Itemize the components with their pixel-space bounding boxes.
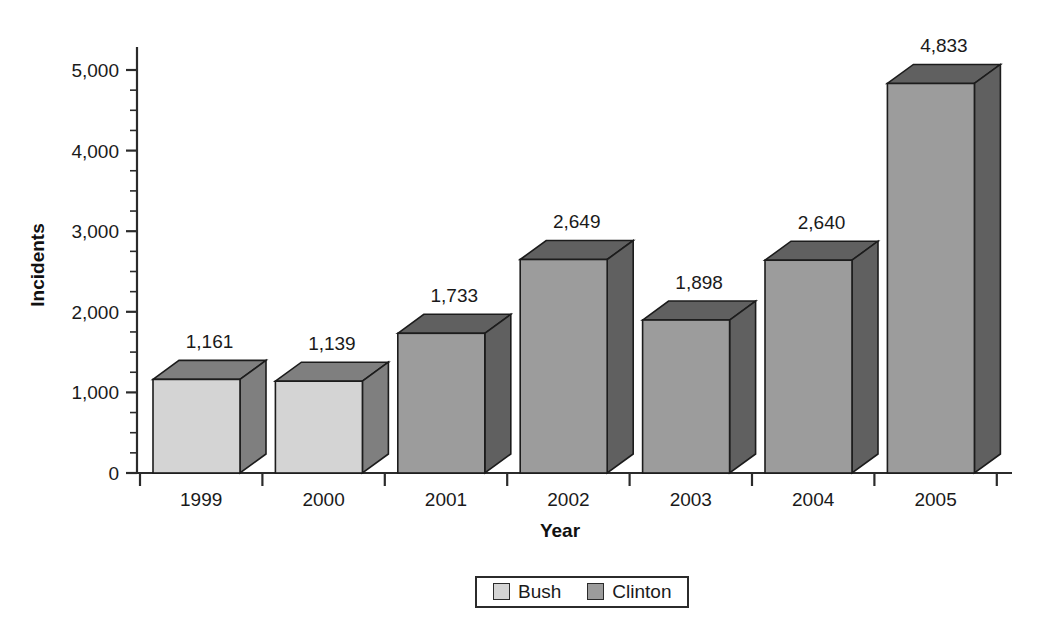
value-label-1999: 1,161 [186,331,234,352]
value-label-2002: 2,649 [553,211,601,232]
value-label-2003: 1,898 [675,272,723,293]
bar-2004 [765,241,878,473]
bar-2003 [643,301,756,473]
legend-swatch-clinton [587,583,604,600]
y-tick-label: 4,000 [71,141,119,162]
bar-2001 [398,314,511,473]
value-label-2000: 1,139 [308,333,356,354]
bar-2002 [520,240,633,473]
legend-label-bush: Bush [518,582,561,601]
legend-item-bush: Bush [493,582,561,601]
x-tick-label-2004: 2004 [792,489,835,510]
x-tick-label-1999: 1999 [180,489,222,510]
y-tick-label: 2,000 [71,302,119,323]
value-label-2005: 4,833 [920,35,968,56]
value-label-2004: 2,640 [798,212,846,233]
x-tick-label-2005: 2005 [914,489,956,510]
chart-page: 01,0002,0003,0004,0005,000 1999200020012… [0,0,1041,630]
legend-item-clinton: Clinton [587,582,671,601]
x-tick-label-2001: 2001 [425,489,467,510]
x-tick-label-2002: 2002 [547,489,589,510]
x-tick-label-2003: 2003 [670,489,712,510]
y-axis-title: Incidents [27,223,48,306]
chart-legend: Bush Clinton [475,576,689,608]
y-tick-labels: 01,0002,0003,0004,0005,000 [71,60,119,484]
value-label-2001: 1,733 [431,285,479,306]
y-tick-label: 1,000 [71,382,119,403]
legend-swatch-bush [493,583,510,600]
x-tick-labels: 1999200020012002200320042005 [180,489,957,510]
y-tick-label: 0 [108,463,119,484]
bar-2005 [887,64,1000,473]
bar-chart-plot: 01,0002,0003,0004,0005,000 1999200020012… [0,0,1041,630]
legend-label-clinton: Clinton [612,582,671,601]
bar-1999 [153,360,266,473]
bars-group [153,64,1000,473]
x-axis-title: Year [540,520,581,541]
bar-2000 [275,362,388,473]
y-tick-label: 5,000 [71,60,119,81]
y-tick-label: 3,000 [71,221,119,242]
x-tick-label-2000: 2000 [302,489,344,510]
